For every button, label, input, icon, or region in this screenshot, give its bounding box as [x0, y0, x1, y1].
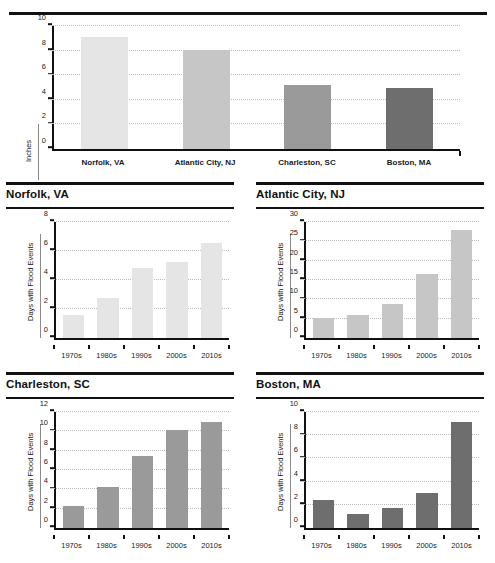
- y-tick-mark: [300, 239, 304, 241]
- y-tick-mark: [48, 73, 52, 75]
- x-tick-mark: [303, 345, 305, 349]
- y-tick-label: 0: [42, 136, 46, 145]
- y-tick-label: 6: [294, 445, 298, 454]
- main-plot-area: 0246810: [52, 26, 460, 151]
- panel-rule-bottom: [6, 207, 234, 209]
- x-tick-mark: [193, 345, 195, 349]
- x-tick-mark: [158, 535, 160, 539]
- y-tick-mark: [300, 456, 304, 458]
- x-tick-mark: [373, 535, 375, 539]
- y-tick-label: 2: [44, 495, 48, 504]
- x-tick-label: 2000s: [159, 351, 194, 360]
- bar-slot: [444, 222, 479, 338]
- x-tick-label: 2000s: [409, 541, 444, 550]
- x-tick-mark: [53, 345, 55, 349]
- x-tick-label: 1970s: [54, 541, 89, 550]
- x-tick-mark: [443, 535, 445, 539]
- y-tick-label: 4: [44, 267, 48, 276]
- x-tick-label: 2000s: [409, 351, 444, 360]
- bar-slot: [194, 222, 229, 338]
- x-tick-label: Norfolk, VA: [52, 158, 154, 167]
- sea-level-rise-chart: Inches 0246810 Norfolk, VAAtlantic City,…: [0, 20, 495, 180]
- panel-bar-series: [56, 222, 229, 338]
- y-tick-label: 6: [44, 238, 48, 247]
- bar-slot: [125, 222, 160, 338]
- x-tick-mark: [338, 345, 340, 349]
- y-tick-mark: [48, 122, 52, 124]
- y-tick-mark: [300, 526, 304, 528]
- y-tick-mark: [300, 258, 304, 260]
- bar: [382, 304, 403, 338]
- y-tick-label: 12: [40, 399, 48, 408]
- bar-slot: [91, 222, 126, 338]
- y-tick-mark: [300, 316, 304, 318]
- x-tick-mark: [303, 535, 305, 539]
- bar-slot: [410, 222, 445, 338]
- panel-title: Norfolk, VA: [6, 188, 69, 200]
- bar: [97, 487, 118, 528]
- x-tick-mark: [158, 345, 160, 349]
- x-tick-mark: [228, 345, 230, 349]
- y-tick-label: 0: [294, 325, 298, 334]
- y-tick-mark: [300, 410, 304, 412]
- x-tick-label: 1990s: [124, 541, 159, 550]
- bar-slot: [56, 222, 91, 338]
- y-tick-mark: [300, 336, 304, 338]
- x-tick-mark: [228, 535, 230, 539]
- y-tick-mark: [50, 468, 54, 470]
- y-tick-mark: [48, 97, 52, 99]
- x-tick-mark: [478, 345, 480, 349]
- panel-plot-area: 02468: [54, 222, 229, 340]
- panel-x-tick-labels: 1970s1980s1990s2000s2010s: [304, 535, 479, 550]
- y-tick-label: 15: [290, 267, 298, 276]
- bar: [382, 508, 403, 528]
- y-tick-label: 8: [294, 422, 298, 431]
- bar: [132, 456, 153, 528]
- main-axis-end-tick: [459, 151, 461, 156]
- y-tick-label: 0: [44, 325, 48, 334]
- x-tick-label: 1980s: [89, 351, 124, 360]
- x-tick-mark: [338, 535, 340, 539]
- bar: [201, 422, 222, 529]
- x-tick-mark: [88, 345, 90, 349]
- bar-slot: [410, 412, 445, 528]
- bar: [63, 506, 84, 528]
- main-ylabel-accent: [38, 124, 39, 180]
- y-tick-label: 5: [294, 305, 298, 314]
- y-tick-label: 2: [44, 296, 48, 305]
- y-tick-mark: [50, 336, 54, 338]
- page-top-rule: [9, 12, 487, 15]
- x-tick-mark: [88, 535, 90, 539]
- y-tick-label: 10: [40, 418, 48, 427]
- panel-y-axis-label: Days with Flood Events: [276, 226, 285, 338]
- x-tick-label: Boston, MA: [358, 158, 460, 167]
- panel-bar-series: [306, 222, 479, 338]
- y-tick-mark: [300, 278, 304, 280]
- y-tick-label: 4: [42, 86, 46, 95]
- bar-slot: [56, 412, 91, 528]
- bar: [347, 514, 368, 528]
- panel-charleston: Charleston, SC Days with Flood Events 02…: [0, 372, 240, 562]
- y-tick-label: 2: [294, 491, 298, 500]
- x-tick-label: 2010s: [444, 351, 479, 360]
- bar: [386, 88, 433, 149]
- bar-slot: [257, 26, 359, 149]
- y-tick-label: 2: [42, 111, 46, 120]
- panel-x-axis: [54, 338, 229, 340]
- x-tick-label: 1970s: [304, 351, 339, 360]
- y-tick-mark: [300, 479, 304, 481]
- main-x-tick-labels: Norfolk, VAAtlantic City, NJCharleston, …: [52, 158, 460, 167]
- bar-slot: [375, 412, 410, 528]
- y-tick-mark: [50, 448, 54, 450]
- x-tick-label: 2010s: [194, 541, 229, 550]
- bar-slot: [306, 412, 341, 528]
- bar: [451, 422, 472, 528]
- panel-rule-top: [6, 182, 234, 185]
- panel-ylabel-accent: [40, 424, 41, 528]
- panel-x-axis: [54, 528, 229, 530]
- panel-x-tick-labels: 1970s1980s1990s2000s2010s: [304, 345, 479, 360]
- bar-slot: [341, 222, 376, 338]
- main-bar-series: [54, 26, 460, 149]
- y-tick-label: 4: [44, 476, 48, 485]
- x-tick-mark: [408, 535, 410, 539]
